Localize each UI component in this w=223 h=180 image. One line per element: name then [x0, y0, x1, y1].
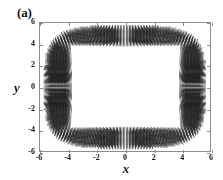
- y-tick-mark-right: [207, 66, 210, 67]
- x-tick-label: 2: [152, 154, 156, 162]
- x-tick-mark-top: [183, 23, 184, 26]
- x-tick-mark-top: [126, 23, 127, 26]
- y-tick-label: 4: [16, 40, 35, 48]
- y-tick-mark-right: [207, 23, 210, 24]
- x-tick-label: -4: [64, 154, 71, 162]
- y-tick-mark-right: [207, 131, 210, 132]
- vector-field-plot: [40, 23, 210, 151]
- y-tick-label: -4: [16, 126, 35, 134]
- y-axis-title: y: [14, 81, 20, 94]
- y-tick-mark: [40, 66, 43, 67]
- x-axis-title: x: [123, 162, 130, 175]
- x-tick-mark-top: [69, 23, 70, 26]
- x-tick-mark-top: [155, 23, 156, 26]
- y-tick-mark: [40, 110, 43, 111]
- plot-frame: [39, 22, 211, 152]
- x-tick-mark-top: [212, 23, 213, 26]
- x-tick-label: -2: [93, 154, 100, 162]
- y-tick-label: -2: [16, 105, 35, 113]
- y-tick-mark-right: [207, 110, 210, 111]
- y-tick-mark-right: [207, 88, 210, 89]
- x-tick-label: 6: [209, 154, 213, 162]
- figure-panel-a: (a) -6-4-202466420-2-4-6 x y: [0, 0, 223, 180]
- y-tick-label: 6: [16, 18, 35, 26]
- y-tick-mark-right: [207, 45, 210, 46]
- y-tick-mark: [40, 131, 43, 132]
- y-tick-mark: [40, 23, 43, 24]
- y-tick-mark: [40, 45, 43, 46]
- x-tick-label: 4: [180, 154, 184, 162]
- y-tick-label: -6: [16, 148, 35, 156]
- x-tick-label: -6: [36, 154, 43, 162]
- y-tick-label: 2: [16, 61, 35, 69]
- y-tick-mark: [40, 88, 43, 89]
- x-tick-mark-top: [97, 23, 98, 26]
